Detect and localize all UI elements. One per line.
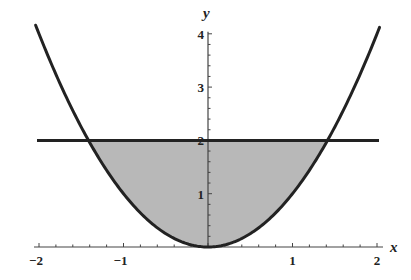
x-tick-label: −1 bbox=[114, 253, 128, 268]
x-axis-label: x bbox=[389, 239, 398, 255]
y-tick-label: 1 bbox=[198, 187, 205, 202]
y-tick-label: 3 bbox=[198, 80, 205, 95]
x-tick-label: −2 bbox=[29, 253, 43, 268]
y-axis-label: y bbox=[201, 5, 210, 21]
x-tick-label: 1 bbox=[289, 253, 296, 268]
x-tick-label: 2 bbox=[374, 253, 381, 268]
y-tick-label: 4 bbox=[198, 27, 205, 42]
chart-plot: −2−112 1234 x y bbox=[0, 0, 411, 280]
